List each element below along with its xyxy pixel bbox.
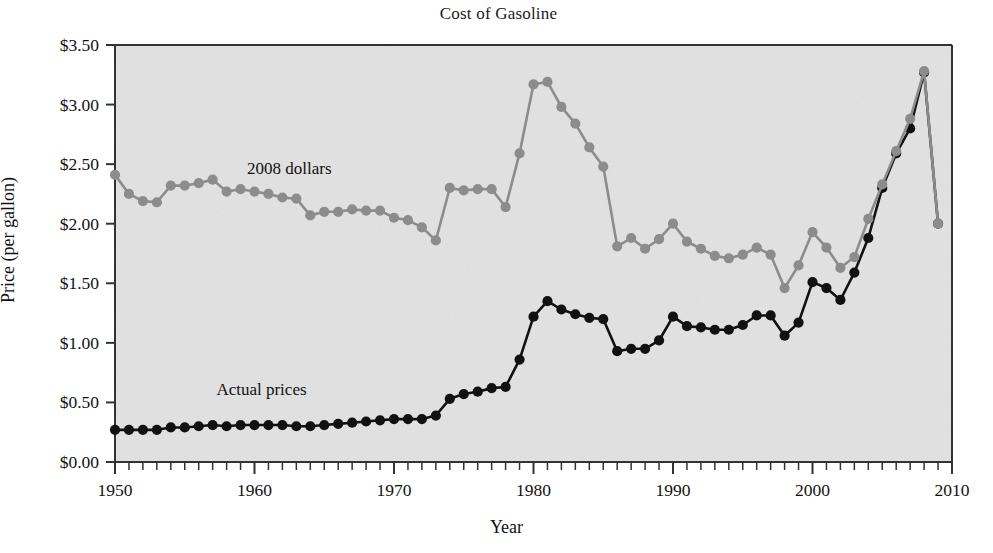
y-tick-label: $3.50 — [60, 35, 100, 55]
data-point — [542, 296, 552, 306]
data-point — [347, 204, 357, 214]
data-point — [724, 325, 734, 335]
data-point — [542, 77, 552, 87]
data-point — [668, 219, 678, 229]
data-point — [821, 242, 831, 252]
data-point — [473, 387, 483, 397]
y-tick-label: $2.00 — [60, 214, 100, 234]
data-point — [766, 310, 776, 320]
data-point — [863, 233, 873, 243]
data-point — [752, 242, 762, 252]
data-point — [738, 250, 748, 260]
data-point — [919, 66, 929, 76]
data-point — [487, 184, 497, 194]
data-point — [389, 414, 399, 424]
data-point — [668, 312, 678, 322]
data-point — [556, 102, 566, 112]
data-point — [249, 420, 259, 430]
data-point — [780, 283, 790, 293]
data-point — [403, 414, 413, 424]
y-axis-ticks: $0.00$0.50$1.00$1.50$2.00$2.50$3.00$3.50 — [60, 35, 115, 472]
data-point — [431, 235, 441, 245]
data-point — [849, 267, 859, 277]
data-point — [584, 313, 594, 323]
data-point — [849, 252, 859, 262]
plot-background-rect — [115, 45, 952, 462]
data-point — [528, 79, 538, 89]
plot-area-wrapper: $0.00$0.50$1.00$1.50$2.00$2.50$3.00$3.50… — [0, 0, 993, 553]
data-point — [501, 202, 511, 212]
data-point — [235, 184, 245, 194]
data-point — [682, 236, 692, 246]
plot-background — [115, 45, 952, 462]
data-point — [333, 419, 343, 429]
chart-page: Cost of Gasoline Price (per gallon) Year… — [0, 0, 993, 553]
data-point — [626, 233, 636, 243]
data-point — [403, 215, 413, 225]
data-point — [752, 310, 762, 320]
data-point — [598, 161, 608, 171]
data-point — [877, 179, 887, 189]
data-point — [375, 206, 385, 216]
data-point — [654, 335, 664, 345]
data-point — [459, 185, 469, 195]
data-point — [319, 207, 329, 217]
data-point — [431, 410, 441, 420]
data-point — [235, 420, 245, 430]
data-point — [263, 189, 273, 199]
data-point — [724, 253, 734, 263]
data-point — [933, 219, 943, 229]
data-point — [445, 183, 455, 193]
data-point — [640, 244, 650, 254]
data-point — [612, 241, 622, 251]
data-point — [110, 170, 120, 180]
data-point — [208, 420, 218, 430]
data-point — [152, 197, 162, 207]
data-point — [375, 415, 385, 425]
data-point — [738, 320, 748, 330]
data-point — [347, 418, 357, 428]
data-point — [905, 114, 915, 124]
data-point — [138, 425, 148, 435]
data-point — [473, 184, 483, 194]
data-point — [710, 251, 720, 261]
data-point — [891, 146, 901, 156]
data-point — [180, 422, 190, 432]
data-point — [361, 206, 371, 216]
data-point — [807, 227, 817, 237]
data-point — [640, 344, 650, 354]
data-point — [166, 422, 176, 432]
data-point — [821, 283, 831, 293]
y-tick-label: $1.50 — [60, 273, 100, 293]
data-point — [110, 425, 120, 435]
data-point — [291, 421, 301, 431]
data-point — [305, 210, 315, 220]
x-tick-label: 1950 — [98, 480, 133, 500]
data-point — [793, 260, 803, 270]
x-tick-label: 1960 — [237, 480, 272, 500]
data-point — [417, 222, 427, 232]
data-point — [166, 180, 176, 190]
data-point — [124, 189, 134, 199]
y-tick-label: $0.50 — [60, 392, 100, 412]
data-point — [222, 186, 232, 196]
data-point — [194, 421, 204, 431]
data-point — [333, 207, 343, 217]
x-tick-label: 1980 — [516, 480, 551, 500]
data-point — [180, 180, 190, 190]
data-point — [514, 354, 524, 364]
data-point — [696, 322, 706, 332]
y-tick-label: $3.00 — [60, 95, 100, 115]
data-point — [361, 416, 371, 426]
data-point — [807, 277, 817, 287]
data-point — [291, 194, 301, 204]
data-point — [612, 346, 622, 356]
data-point — [584, 142, 594, 152]
data-point — [696, 244, 706, 254]
data-point — [487, 383, 497, 393]
data-point — [445, 394, 455, 404]
data-point — [626, 344, 636, 354]
data-point — [138, 196, 148, 206]
data-point — [319, 420, 329, 430]
data-point — [194, 178, 204, 188]
